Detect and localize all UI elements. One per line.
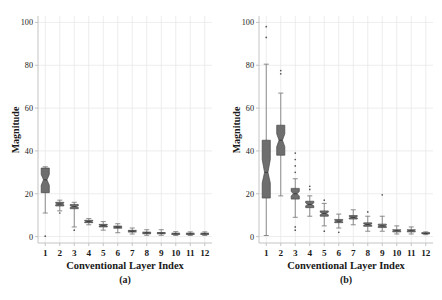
x-tick-label: 6 bbox=[115, 248, 120, 258]
y-tick-label: 0 bbox=[250, 233, 254, 242]
panel-b-plot: 020406080100123456789101112 bbox=[221, 0, 442, 300]
outlier-point bbox=[323, 230, 325, 232]
outlier-point bbox=[381, 194, 383, 196]
y-tick-label: 100 bbox=[242, 18, 254, 27]
panel-b-y-axis-label: Magnitude bbox=[231, 106, 242, 153]
panel-b-x-axis-label: Conventional Layer Index bbox=[287, 260, 405, 271]
y-tick-label: 60 bbox=[25, 104, 33, 113]
panel-a-x-axis-label: Conventional Layer Index bbox=[66, 260, 184, 271]
figure-boxplot-pair: 020406080100123456789101112 Magnitude Co… bbox=[0, 0, 442, 300]
y-tick-label: 0 bbox=[29, 233, 33, 242]
panel-a-y-axis-label: Magnitude bbox=[10, 106, 21, 153]
x-tick-label: 1 bbox=[43, 248, 48, 258]
y-tick-label: 80 bbox=[25, 61, 33, 70]
outlier-point bbox=[59, 212, 61, 214]
x-tick-label: 11 bbox=[186, 248, 195, 258]
x-tick-label: 2 bbox=[278, 248, 283, 258]
panel-a: 020406080100123456789101112 Magnitude Co… bbox=[0, 0, 221, 300]
x-tick-label: 7 bbox=[351, 248, 356, 258]
x-tick-label: 3 bbox=[72, 248, 77, 258]
panel-b: 020406080100123456789101112 Magnitude Co… bbox=[221, 0, 442, 300]
x-tick-label: 10 bbox=[171, 248, 181, 258]
outlier-point bbox=[367, 211, 369, 213]
x-tick-label: 11 bbox=[407, 248, 416, 258]
outlier-point bbox=[280, 70, 282, 72]
x-tick-label: 5 bbox=[101, 248, 106, 258]
x-tick-label: 9 bbox=[159, 248, 164, 258]
outlier-point bbox=[338, 231, 340, 233]
outlier-point bbox=[73, 229, 75, 231]
outlier-point bbox=[323, 199, 325, 201]
outlier-point bbox=[309, 185, 311, 187]
outlier-point bbox=[294, 171, 296, 173]
x-tick-label: 7 bbox=[130, 248, 135, 258]
y-tick-label: 20 bbox=[25, 190, 33, 199]
x-tick-label: 8 bbox=[365, 248, 370, 258]
outlier-point bbox=[44, 235, 46, 237]
x-tick-label: 1 bbox=[264, 248, 269, 258]
outlier-point bbox=[294, 152, 296, 154]
x-tick-label: 5 bbox=[322, 248, 327, 258]
panel-a-caption: (a) bbox=[119, 274, 131, 285]
x-tick-label: 10 bbox=[392, 248, 402, 258]
outlier-point bbox=[265, 37, 267, 39]
x-tick-label: 4 bbox=[86, 248, 91, 258]
x-tick-label: 2 bbox=[57, 248, 62, 258]
x-tick-label: 9 bbox=[380, 248, 385, 258]
y-tick-label: 60 bbox=[246, 104, 254, 113]
outlier-point bbox=[294, 165, 296, 167]
y-tick-label: 40 bbox=[25, 147, 33, 156]
x-tick-label: 4 bbox=[307, 248, 312, 258]
outlier-point bbox=[294, 229, 296, 231]
x-tick-label: 8 bbox=[144, 248, 149, 258]
outlier-point bbox=[265, 26, 267, 28]
y-tick-label: 40 bbox=[246, 147, 254, 156]
outlier-point bbox=[309, 189, 311, 191]
x-tick-label: 6 bbox=[336, 248, 341, 258]
outlier-point bbox=[294, 159, 296, 161]
outlier-point bbox=[280, 73, 282, 75]
outlier-point bbox=[294, 226, 296, 228]
y-tick-label: 20 bbox=[246, 190, 254, 199]
y-tick-label: 80 bbox=[246, 61, 254, 70]
panel-b-caption: (b) bbox=[340, 274, 352, 285]
panel-a-plot: 020406080100123456789101112 bbox=[0, 0, 221, 300]
y-tick-label: 100 bbox=[21, 18, 33, 27]
x-tick-label: 12 bbox=[421, 248, 431, 258]
x-tick-label: 3 bbox=[293, 248, 298, 258]
x-tick-label: 12 bbox=[200, 248, 210, 258]
